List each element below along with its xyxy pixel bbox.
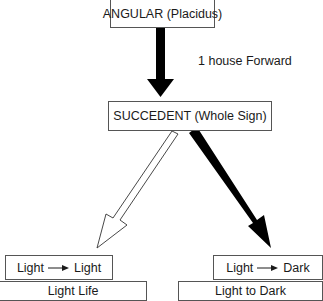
angular-node: ANGULAR (Placidus) [110, 0, 215, 28]
light-dark-node: Light Dark [213, 255, 323, 280]
left-from-label: Light [17, 261, 44, 275]
succedent-node: SUCCEDENT (Whole Sign) [108, 101, 272, 131]
forward-edge-label: 1 house Forward [198, 54, 292, 68]
right-to-label: Dark [283, 261, 309, 275]
left-outcome-label: Light Life [48, 284, 99, 298]
small-right-arrow-icon [257, 264, 279, 272]
right-from-label: Light [226, 261, 253, 275]
small-right-arrow-icon [48, 264, 70, 272]
light-light-node: Light Light [5, 255, 113, 280]
left-outcome-node: Light Life [0, 281, 147, 301]
right-outcome-label: Light to Dark [215, 284, 286, 298]
hollow-arrow-left [97, 131, 178, 248]
angular-label: ANGULAR (Placidus) [103, 7, 222, 21]
black-arrow-right [189, 127, 271, 248]
right-outcome-node: Light to Dark [178, 281, 323, 301]
left-to-label: Light [74, 261, 101, 275]
succedent-label: SUCCEDENT (Whole Sign) [113, 109, 266, 123]
forward-arrow [147, 28, 174, 97]
